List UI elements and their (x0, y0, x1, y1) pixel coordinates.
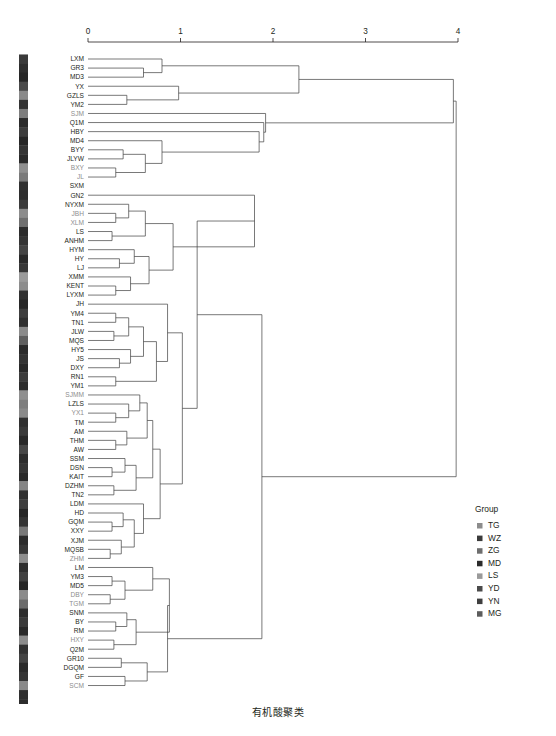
strip-cell (19, 499, 28, 508)
legend-swatch[interactable] (477, 548, 483, 554)
legend-item-label[interactable]: ZG (488, 545, 500, 555)
strip-cell (19, 281, 28, 290)
strip-cell (19, 300, 28, 309)
axis-scale: 01234 (86, 27, 461, 42)
legend-swatch[interactable] (477, 573, 483, 579)
leaf-label: YM3 (70, 573, 84, 580)
legend-swatch[interactable] (477, 586, 483, 592)
leaf-label: HYM (69, 246, 84, 253)
dendro-link (88, 232, 112, 241)
leaf-label: TN1 (72, 319, 85, 326)
dendro-link (88, 204, 129, 218)
legend-item-label[interactable]: WZ (488, 533, 501, 543)
strip-cell (19, 400, 28, 409)
dendro-link (88, 286, 116, 295)
dendro-link (88, 359, 119, 368)
strip-cell (19, 599, 28, 608)
dendro-link (88, 350, 131, 364)
dendrogram-figure: 01234LXMGR3MD3YXGZLSYM2SJMQ1MHBYMD4BYYJL… (0, 0, 556, 736)
leaf-label: SJM (71, 110, 84, 117)
strip-cell (19, 690, 28, 699)
leaf-label: HY5 (71, 346, 84, 353)
axis-tick-label: 2 (271, 27, 276, 36)
legend-swatch[interactable] (477, 561, 483, 567)
strip-cell (19, 427, 28, 436)
legend-item-label[interactable]: LS (488, 570, 499, 580)
leaf-label: YM1 (70, 382, 84, 389)
dendro-link (88, 468, 112, 477)
strip-cell (19, 508, 28, 517)
strip-cell (19, 518, 28, 527)
strip-cell (19, 109, 28, 118)
legend-item-label[interactable]: MD (488, 558, 501, 568)
legend-title: Group (475, 504, 499, 514)
strip-cell (19, 645, 28, 654)
legend-item-label[interactable]: YN (488, 596, 500, 606)
dendro-link (88, 250, 134, 264)
strip-cell (19, 54, 28, 63)
strip-cell (19, 418, 28, 427)
strip-cell (19, 245, 28, 254)
strip-cell (19, 318, 28, 327)
dendro-link (88, 395, 140, 411)
dendro-link (88, 377, 116, 386)
strip-cell (19, 173, 28, 182)
leaf-label: YX (75, 83, 84, 90)
leaf-label: JLW (71, 328, 84, 335)
strip-cell (19, 182, 28, 191)
axis-tick-label: 0 (86, 27, 91, 36)
leaf-label: GR3 (70, 64, 84, 71)
dendro-link (88, 86, 179, 100)
leaf-label: DZHM (65, 482, 84, 489)
strip-cell (19, 554, 28, 563)
leaf-label: YM4 (70, 310, 84, 317)
dendro-link (144, 449, 161, 519)
axis-tick-label: 4 (456, 27, 461, 36)
leaf-label: DBY (70, 591, 84, 598)
strip-cell (19, 572, 28, 581)
legend-item-label[interactable]: YD (488, 583, 500, 593)
strip-cell (19, 91, 28, 100)
leaf-label: LZLS (68, 400, 84, 407)
leaf-label: XXY (71, 527, 85, 534)
leaf-label: JH (76, 300, 84, 307)
leaf-label: JLYW (67, 155, 85, 162)
legend-swatch[interactable] (477, 599, 483, 605)
dendro-link (131, 256, 150, 283)
dendro-link (88, 658, 121, 667)
leaf-label: DGQM (63, 664, 84, 672)
strip-cell (19, 363, 28, 372)
legend-swatch[interactable] (477, 523, 483, 529)
dendro-link (266, 79, 454, 122)
legend-item-label[interactable]: TG (488, 520, 500, 530)
legend-item-label[interactable]: MG (488, 608, 502, 618)
dendro-link (88, 613, 127, 627)
strip-cell (19, 218, 28, 227)
strip-cell (19, 145, 28, 154)
legend-swatch[interactable] (477, 536, 483, 542)
leaf-label: XJM (71, 537, 84, 544)
strip-cell (19, 82, 28, 91)
strip-cell (19, 536, 28, 545)
strip-cell (19, 291, 28, 300)
leaf-label: GQM (68, 518, 84, 526)
legend-swatch[interactable] (477, 611, 483, 617)
strip-cell (19, 545, 28, 554)
leaf-label: SJMM (65, 391, 84, 398)
dendro-link (88, 304, 168, 361)
strip-cell (19, 608, 28, 617)
leaf-label: AW (74, 446, 85, 453)
strip-cell (19, 490, 28, 499)
dendro-link (145, 224, 173, 271)
strip-cell (19, 627, 28, 636)
dendro-link (88, 123, 264, 142)
leaf-label: HBY (70, 128, 84, 135)
leaf-label: SCM (69, 682, 84, 689)
dendro-link (88, 213, 116, 222)
strip-cell (19, 463, 28, 472)
dendro-link (88, 141, 162, 164)
dendro-link (116, 342, 157, 382)
strip-cell (19, 681, 28, 690)
dendro-link (88, 622, 116, 631)
strip-cell (19, 227, 28, 236)
